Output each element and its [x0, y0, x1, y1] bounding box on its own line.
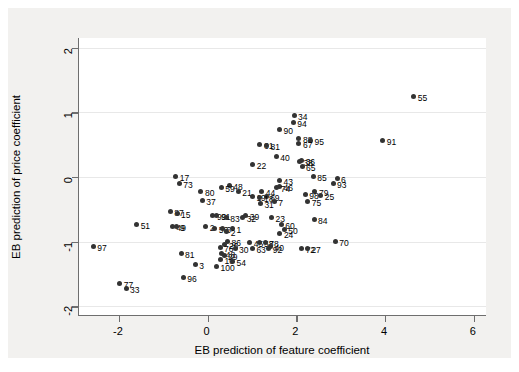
- plot-area: 5534949088959167618140363822658517643937…: [78, 38, 486, 316]
- scatter-point: [177, 181, 182, 186]
- scatter-point-label: 27: [311, 246, 320, 255]
- x-axis-tick: [474, 316, 475, 322]
- scatter-point: [279, 222, 284, 227]
- y-axis-tick-label: 1: [62, 112, 74, 128]
- scatter-point: [134, 222, 139, 227]
- scatter-point: [411, 94, 416, 99]
- scatter-point-label: 32: [247, 214, 256, 223]
- scatter-point-label: 2: [231, 229, 236, 238]
- scatter-point: [224, 215, 229, 220]
- scatter-point-label: 74: [281, 185, 290, 194]
- x-axis-tick-label: 4: [381, 325, 387, 337]
- x-axis-tick: [296, 316, 297, 322]
- scatter-point: [175, 211, 180, 216]
- scatter-point-label: 1: [236, 225, 241, 234]
- scatter-point-label: 65: [306, 163, 315, 172]
- scatter-point-label: 63: [256, 245, 265, 254]
- scatter-point: [219, 185, 224, 190]
- scatter-point-label: 7: [278, 199, 283, 208]
- scatter-point: [292, 113, 297, 118]
- scatter-point-label: 9: [180, 223, 185, 232]
- scatter-point: [291, 120, 296, 125]
- scatter-point-label: 81: [271, 143, 280, 152]
- scatter-point: [258, 201, 263, 206]
- scatter-point: [257, 142, 262, 147]
- y-axis-tick-label: 0: [62, 177, 74, 193]
- scatter-point-label: 84: [318, 216, 327, 225]
- scatter-point: [274, 154, 279, 159]
- y-axis-title: EB prediction of price coefficient: [8, 38, 24, 316]
- gridline: [79, 112, 486, 113]
- scatter-point: [264, 143, 269, 148]
- scatter-point: [193, 262, 198, 267]
- scatter-point: [333, 239, 338, 244]
- scatter-point: [331, 181, 336, 186]
- scatter-point-label: 75: [312, 199, 321, 208]
- scatter-point-label: 95: [314, 137, 323, 146]
- scatter-point-label: 83: [230, 215, 239, 224]
- scatter-point: [200, 198, 205, 203]
- scatter-point-label: 90: [283, 126, 292, 135]
- scatter-point: [311, 174, 316, 179]
- scatter-point: [91, 244, 96, 249]
- scatter-point: [380, 138, 385, 143]
- scatter-point: [218, 245, 223, 250]
- scatter-point: [250, 162, 255, 167]
- scatter-point: [296, 136, 301, 141]
- scatter-point: [250, 194, 255, 199]
- scatter-point-label: 40: [280, 154, 289, 163]
- scatter-point-label: 55: [418, 93, 427, 102]
- scatter-point: [303, 192, 308, 197]
- scatter-point-label: 51: [141, 221, 150, 230]
- scatter-point-label: 93: [337, 181, 346, 190]
- figure: EB prediction of price coefficient 55349…: [0, 0, 519, 372]
- scatter-point: [212, 226, 217, 231]
- scatter-point: [240, 215, 245, 220]
- scatter-point-label: 81: [185, 251, 194, 260]
- y-axis-tick-label: -1: [62, 242, 74, 258]
- x-axis-tick-label: 2: [292, 325, 298, 337]
- x-axis-tick-label: 0: [204, 325, 210, 337]
- x-axis-tick: [119, 316, 120, 322]
- scatter-point-label: 100: [220, 263, 234, 272]
- scatter-point: [250, 246, 255, 251]
- scatter-point-label: 3: [199, 262, 204, 271]
- scatter-point-label: 91: [387, 137, 396, 146]
- x-axis-tick: [208, 316, 209, 322]
- scatter-point-label: 67: [303, 141, 312, 150]
- scatter-point: [296, 141, 301, 146]
- scatter-point-label: 92: [273, 246, 282, 255]
- scatter-point-label: 24: [284, 231, 293, 240]
- scatter-point: [124, 286, 129, 291]
- scatter-point: [277, 231, 282, 236]
- scatter-point: [299, 246, 304, 251]
- scatter-point: [236, 189, 241, 194]
- scatter-point: [266, 246, 271, 251]
- scatter-point: [173, 174, 178, 179]
- scatter-point-label: 97: [97, 244, 106, 253]
- scatter-point-label: 73: [183, 181, 192, 190]
- gridline: [79, 306, 486, 307]
- scatter-point: [203, 224, 208, 229]
- x-axis-title: EB prediction of feature coefficient: [78, 344, 486, 356]
- scatter-point: [168, 209, 173, 214]
- scatter-point: [277, 127, 282, 132]
- scatter-point: [277, 178, 282, 183]
- x-axis-tick: [385, 316, 386, 322]
- gridline: [79, 48, 486, 49]
- x-axis-tick-label: 6: [470, 325, 476, 337]
- y-axis-title-text: EB prediction of price coefficient: [10, 95, 22, 259]
- y-axis-tick-label: -2: [62, 306, 74, 322]
- scatter-point-label: 59: [225, 185, 234, 194]
- scatter-point-label: 85: [317, 174, 326, 183]
- x-axis-tick-label: -2: [113, 325, 123, 337]
- scatter-point: [218, 257, 223, 262]
- scatter-point-label: 22: [257, 162, 266, 171]
- scatter-point: [181, 275, 186, 280]
- scatter-point: [179, 251, 184, 256]
- scatter-point-label: 25: [325, 193, 334, 202]
- scatter-point: [300, 164, 305, 169]
- scatter-point-label: 37: [206, 198, 215, 207]
- scatter-point: [305, 199, 310, 204]
- scatter-point: [214, 264, 219, 269]
